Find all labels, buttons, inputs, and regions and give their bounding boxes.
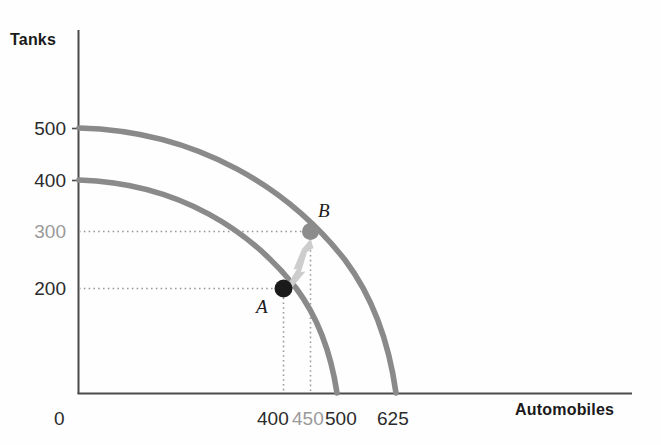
y-axis-title: Tanks [10,31,56,49]
x-axis-title: Automobiles [515,401,614,419]
x-tick-label-origin: 0 [54,408,65,430]
ppf-plot-canvas [0,0,661,445]
x-tick-label-400: 400 [257,408,289,430]
data-point-a-marker [275,280,293,298]
y-tick-label-400: 400 [8,170,66,192]
y-tick-label-200: 200 [8,278,66,300]
ppf-curves-group [79,128,396,393]
chart-figure: Tanks Automobiles 500 400 300 200 0 400 … [0,0,661,445]
data-point-b-label: B [318,200,330,222]
x-tick-label-625: 625 [377,408,409,430]
growth-arrow-icon [288,239,314,287]
y-tick-label-300: 300 [8,221,66,243]
y-tick-label-500: 500 [8,118,66,140]
axes-group [78,30,633,394]
x-tick-label-500: 500 [325,408,357,430]
x-tick-label-450: 450 [292,408,324,430]
data-point-a-label: A [256,296,268,318]
ppf-curve-expanded [79,128,396,393]
data-point-b-marker [302,223,319,240]
guide-lines-group [79,231,311,393]
